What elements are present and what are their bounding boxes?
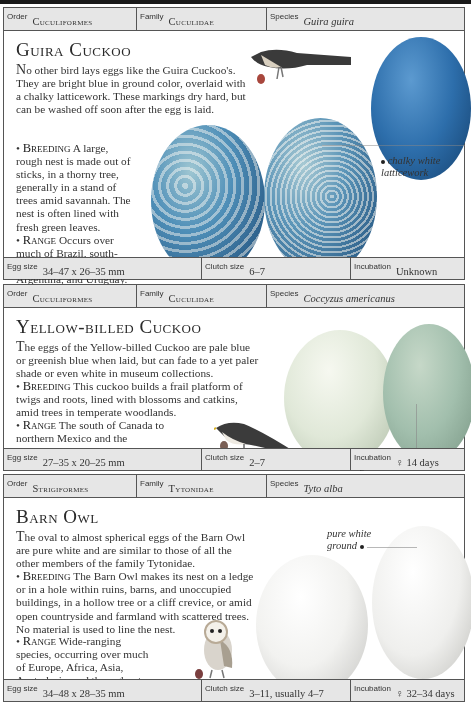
leader-line: [416, 404, 417, 452]
order-value: Strigiformes: [32, 483, 88, 494]
family-label: Family: [140, 479, 164, 488]
range-label: Range: [23, 233, 56, 247]
classification-header: Order Strigiformes Family Tytonidae Spec…: [4, 475, 464, 498]
entry-guira-cuckoo: Order Cuculiformes Family Cuculidae Spec…: [3, 7, 465, 280]
egg-size-value: 27–35 x 20–25 mm: [43, 457, 125, 468]
entry-barn-owl: Order Strigiformes Family Tytonidae Spec…: [3, 474, 465, 702]
egg-size-cell: Egg size 34–48 x 28–35 mm: [4, 680, 202, 701]
incubation-cell: Incubation ♀ 32–34 days: [351, 680, 464, 701]
species-cell: Species Coccyzus americanus: [267, 285, 464, 307]
leader-line: [322, 145, 465, 146]
egg-size-value: 34–47 x 26–35 mm: [43, 266, 125, 277]
egg-latticed-1: [151, 125, 265, 277]
intro-paragraph: The eggs of the Yellow-billed Cuckoo are…: [16, 340, 261, 420]
annotation-chalky: chalky white latticework: [381, 155, 451, 179]
family-value: Tytonidae: [169, 483, 214, 494]
egg-greenish-blue: [383, 324, 471, 462]
family-value: Cuculidae: [169, 16, 214, 27]
family-cell: Family Tytonidae: [137, 475, 267, 497]
clutch-size-value: 2–7: [249, 457, 265, 468]
species-label: Species: [270, 479, 298, 488]
order-cell: Order Strigiformes: [4, 475, 137, 497]
clutch-size-value: 3–11, usually 4–7: [249, 688, 324, 699]
order-value: Cuculiformes: [32, 16, 92, 27]
species-cell: Species Guira guira: [267, 8, 464, 30]
breeding-label: Breeding: [23, 141, 71, 155]
egg-size-cell: Egg size 34–47 x 26–35 mm: [4, 258, 202, 279]
breeding-label: Breeding: [23, 569, 71, 583]
incubation-value: Unknown: [396, 266, 437, 277]
species-value: Coccyzus americanus: [303, 293, 394, 304]
family-value: Cuculidae: [169, 293, 214, 304]
range-label: Range: [23, 418, 56, 432]
family-cell: Family Cuculidae: [137, 285, 267, 307]
order-value: Cuculiformes: [32, 293, 92, 304]
species-title: Yellow-billed Cuckoo: [16, 316, 201, 338]
species-label: Species: [270, 12, 298, 21]
egg-data-footer: Egg size 27–35 x 20–25 mm Clutch size 2–…: [4, 448, 464, 470]
bullet-dot-icon: [360, 545, 364, 549]
annotation-pure-white: pure white ground: [327, 528, 387, 552]
guira-cuckoo-illustration-icon: [247, 43, 355, 85]
species-label: Species: [270, 289, 298, 298]
bullet-dot-icon: [381, 160, 385, 164]
egg-pale: [284, 330, 396, 466]
incubation-value: ♀ 14 days: [396, 457, 439, 468]
clutch-size-value: 6–7: [249, 266, 265, 277]
egg-latticed-2: [264, 118, 377, 275]
species-value: Tyto alba: [303, 483, 342, 494]
species-title: Guira Cuckoo: [16, 39, 131, 61]
egg-data-footer: Egg size 34–48 x 28–35 mm Clutch size 3–…: [4, 679, 464, 701]
egg-size-label: Egg size: [7, 453, 38, 462]
species-title: Barn Owl: [16, 506, 99, 528]
egg-data-footer: Egg size 34–47 x 26–35 mm Clutch size 6–…: [4, 257, 464, 279]
clutch-size-label: Clutch size: [205, 684, 244, 693]
order-cell: Order Cuculiformes: [4, 285, 137, 307]
clutch-size-label: Clutch size: [205, 262, 244, 271]
egg-size-label: Egg size: [7, 684, 38, 693]
family-cell: Family Cuculidae: [137, 8, 267, 30]
barn-owl-illustration-icon: [194, 618, 244, 683]
egg-white-1: [256, 555, 368, 695]
incubation-cell: Incubation ♀ 14 days: [351, 449, 464, 470]
incubation-label: Incubation: [354, 453, 391, 462]
family-label: Family: [140, 12, 164, 21]
incubation-label: Incubation: [354, 684, 391, 693]
entry-yellow-billed-cuckoo: Order Cuculiformes Family Cuculidae Spec…: [3, 284, 465, 471]
breeding-text: A large, rough nest is made out of stick…: [16, 142, 131, 233]
clutch-size-label: Clutch size: [205, 453, 244, 462]
range-label: Range: [23, 634, 56, 648]
incubation-cell: Incubation Unknown: [351, 258, 464, 279]
order-label: Order: [7, 479, 27, 488]
egg-size-label: Egg size: [7, 262, 38, 271]
order-label: Order: [7, 12, 27, 21]
breeding-label: Breeding: [23, 379, 71, 393]
classification-header: Order Cuculiformes Family Cuculidae Spec…: [4, 8, 464, 31]
egg-size-cell: Egg size 27–35 x 20–25 mm: [4, 449, 202, 470]
incubation-value: ♀ 32–34 days: [396, 688, 455, 699]
egg-size-value: 34–48 x 28–35 mm: [43, 688, 125, 699]
incubation-label: Incubation: [354, 262, 391, 271]
species-cell: Species Tyto alba: [267, 475, 464, 497]
order-cell: Order Cuculiformes: [4, 8, 137, 30]
intro-paragraph: No other bird lays eggs like the Guira C…: [16, 63, 251, 116]
clutch-size-cell: Clutch size 2–7: [202, 449, 351, 470]
clutch-size-cell: Clutch size 6–7: [202, 258, 351, 279]
species-value: Guira guira: [303, 16, 353, 27]
classification-header: Order Cuculiformes Family Cuculidae Spec…: [4, 285, 464, 308]
family-label: Family: [140, 289, 164, 298]
top-rule: [0, 0, 471, 4]
clutch-size-cell: Clutch size 3–11, usually 4–7: [202, 680, 351, 701]
order-label: Order: [7, 289, 27, 298]
